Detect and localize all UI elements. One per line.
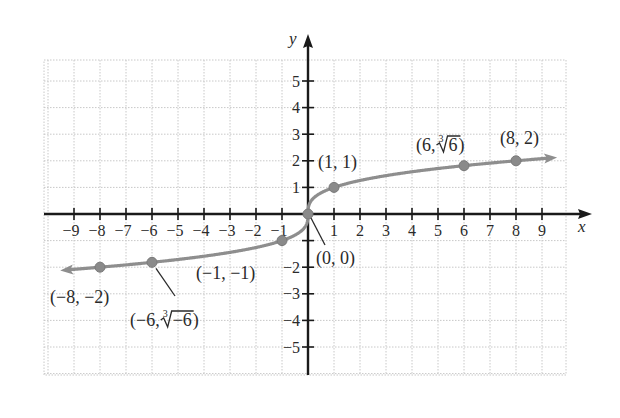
radicand: −6: [173, 310, 192, 330]
x-tick-label: −2: [244, 222, 261, 239]
radicand: 6: [449, 135, 458, 155]
y-tick-label: 4: [292, 99, 300, 116]
y-tick-label: 3: [292, 126, 300, 143]
point-label: (−8, −2): [50, 287, 109, 308]
point-label: (0, 0): [316, 248, 355, 269]
radical-index: 3: [163, 308, 168, 319]
x-axis-label: x: [577, 217, 586, 236]
x-tick-label: 1: [330, 222, 338, 239]
radical-index: 3: [439, 133, 444, 144]
point-label-suffix: ): [193, 310, 199, 331]
x-tick-label: 5: [434, 222, 442, 239]
leader-line: [156, 268, 175, 296]
point-label-radical: (6, 36): [416, 133, 465, 156]
y-tick-label: −5: [283, 339, 300, 356]
point-label-suffix: ): [459, 135, 465, 156]
x-tick-label: −6: [140, 222, 157, 239]
x-tick-label: −3: [218, 222, 235, 239]
point-label: (−1, −1): [196, 263, 255, 284]
y-tick-label: −4: [283, 312, 300, 329]
x-tick-label: 6: [460, 222, 468, 239]
x-tick-label: 3: [382, 222, 390, 239]
y-tick-label: −2: [283, 259, 300, 276]
data-point: [511, 156, 521, 166]
data-point: [303, 209, 313, 219]
data-point: [277, 236, 287, 246]
x-tick-label: −4: [192, 222, 209, 239]
point-label-radical: (−6, 3−6): [130, 308, 199, 331]
point-label: (8, 2): [500, 128, 539, 149]
data-point: [95, 262, 105, 272]
x-tick-label: 9: [538, 222, 546, 239]
point-label-prefix: (−6,: [130, 310, 160, 331]
y-axis-arrow-icon: [303, 34, 313, 48]
y-tick-label: 2: [292, 152, 300, 169]
x-tick-label: −8: [88, 222, 105, 239]
x-tick-label: −5: [166, 222, 183, 239]
x-tick-label: −7: [114, 222, 131, 239]
cube-root-graph: x y −9−8−7−6−5−4−3−2−1123456789−5−4−3−21…: [0, 0, 620, 418]
x-tick-label: 7: [486, 222, 494, 239]
data-point: [329, 182, 339, 192]
data-point: [147, 257, 157, 267]
point-label-prefix: (6,: [416, 135, 436, 156]
data-point: [459, 161, 469, 171]
x-tick-label: 2: [356, 222, 364, 239]
x-tick-label: 8: [512, 222, 520, 239]
point-label: (1, 1): [318, 152, 357, 173]
x-tick-label: 4: [408, 222, 416, 239]
y-tick-label: 5: [292, 73, 300, 90]
x-tick-label: −9: [62, 222, 79, 239]
y-axis-label: y: [287, 29, 297, 48]
y-tick-label: 1: [292, 179, 300, 196]
y-tick-label: −3: [283, 285, 300, 302]
